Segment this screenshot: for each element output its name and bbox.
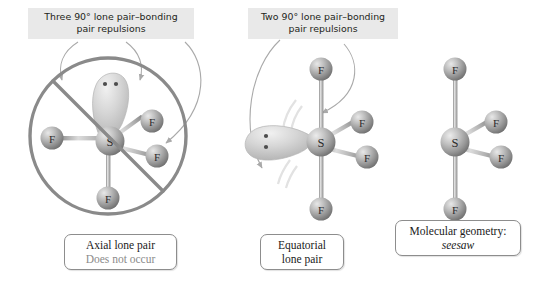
callout-left-line2: pair repulsions bbox=[76, 23, 145, 34]
atom-label-fluorine: F bbox=[318, 64, 324, 76]
lone-pair-dot bbox=[114, 82, 118, 86]
atom-label-fluorine: F bbox=[493, 117, 499, 129]
atom-label-fluorine: F bbox=[149, 116, 155, 128]
atom-fluorine-lower-right: F bbox=[356, 146, 379, 169]
panel-equatorial: S F F F F bbox=[245, 40, 378, 221]
atom-fluorine-left: F bbox=[41, 127, 64, 150]
atom-fluorine-top: F bbox=[444, 58, 467, 81]
atom-label-sulfur: S bbox=[318, 136, 325, 150]
lone-pair-dot bbox=[264, 145, 268, 149]
caption-molecular-geometry: Molecular geometry: seesaw bbox=[395, 220, 521, 256]
atom-label-fluorine: F bbox=[452, 64, 458, 76]
lone-pair-dot bbox=[264, 134, 268, 138]
atom-label-fluorine: F bbox=[154, 151, 160, 163]
atom-fluorine-lower-right: F bbox=[146, 145, 169, 168]
caption-axial-line1: Axial lone pair bbox=[65, 239, 176, 253]
atom-sulfur-axial: S bbox=[96, 127, 125, 156]
atom-label-fluorine: F bbox=[364, 152, 370, 164]
callout-left-line1: Three 90° lone pair–bonding bbox=[44, 11, 177, 22]
panel-geometry: S F F F F bbox=[441, 58, 513, 221]
lone-pair-dot bbox=[103, 82, 107, 86]
callout-label-middle: Two 90° lone pair–bonding pair repulsion… bbox=[248, 8, 398, 39]
atom-fluorine-bottom: F bbox=[97, 187, 120, 210]
atom-fluorine-upper-right: F bbox=[485, 111, 508, 134]
caption-axial-lone-pair: Axial lone pair Does not occur bbox=[64, 234, 177, 270]
caption-axial-line2: Does not occur bbox=[65, 253, 176, 267]
atom-fluorine-top: F bbox=[310, 58, 333, 81]
atom-label-sulfur: S bbox=[452, 136, 459, 150]
repulsion-arrows-left bbox=[61, 42, 201, 143]
atom-fluorine-lower-right: F bbox=[490, 146, 513, 169]
atom-fluorine-upper-right: F bbox=[351, 111, 374, 134]
callout-middle-line2: pair repulsions bbox=[288, 23, 357, 34]
atom-fluorine-bottom: F bbox=[444, 198, 467, 221]
atom-label-fluorine: F bbox=[452, 204, 458, 216]
caption-equatorial-lone-pair: Equatorial lone pair bbox=[260, 234, 344, 270]
atom-sulfur-equatorial: S bbox=[307, 128, 336, 157]
caption-equatorial-line1: Equatorial bbox=[261, 239, 343, 253]
panel-axial: S F F F F bbox=[30, 42, 201, 214]
atom-sulfur-geometry: S bbox=[441, 128, 470, 157]
atom-label-fluorine: F bbox=[318, 204, 324, 216]
callout-middle-line1: Two 90° lone pair–bonding bbox=[261, 11, 385, 22]
caption-geometry-line2: seesaw bbox=[396, 239, 520, 253]
lone-pair-lobe-equatorial bbox=[245, 126, 312, 160]
caption-geometry-line1: Molecular geometry: bbox=[396, 225, 520, 239]
atom-label-fluorine: F bbox=[49, 133, 55, 145]
atom-label-fluorine: F bbox=[498, 152, 504, 164]
atom-label-fluorine: F bbox=[359, 117, 365, 129]
atom-label-fluorine: F bbox=[105, 193, 111, 205]
atom-fluorine-bottom: F bbox=[310, 198, 333, 221]
atom-fluorine-upper-right: F bbox=[141, 110, 164, 133]
caption-equatorial-line2: lone pair bbox=[261, 253, 343, 267]
figure-canvas: S F F F F bbox=[0, 0, 533, 282]
callout-label-left: Three 90° lone pair–bonding pair repulsi… bbox=[28, 8, 194, 39]
